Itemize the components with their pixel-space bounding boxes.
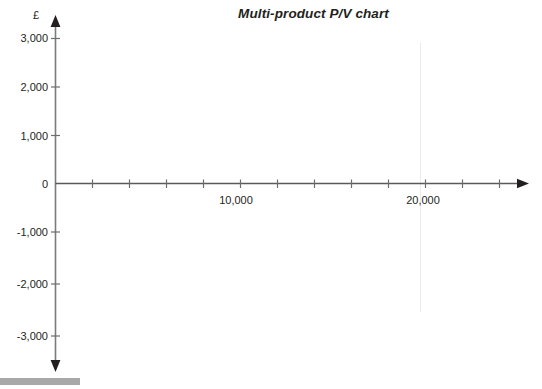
y-axis-label-0: 0 (2, 178, 48, 190)
chart-plot-area (0, 0, 542, 389)
x-axis-label-10000: 10,000 (219, 194, 253, 206)
y-axis-label-1000: 1,000 (2, 130, 48, 142)
x-axis-arrow-right (517, 179, 529, 189)
y-axis-arrow-up (51, 15, 61, 27)
y-axis-label--3000: -3,000 (2, 330, 48, 342)
y-axis-label--1000: -1,000 (2, 226, 48, 238)
chart-page: Multi-product P/V chart £ (0, 0, 542, 389)
y-axis-arrow-down (51, 360, 61, 372)
y-axis-label--2000: -2,000 (2, 278, 48, 290)
y-axis-label-3000: 3,000 (2, 32, 48, 44)
x-axis-label-20000: 20,000 (406, 194, 440, 206)
bottom-progress-bar (0, 378, 80, 385)
y-axis-label-2000: 2,000 (2, 81, 48, 93)
y-axis-tick-labels: 3,000 2,000 1,000 0 -1,000 -2,000 -3,000 (0, 0, 48, 389)
